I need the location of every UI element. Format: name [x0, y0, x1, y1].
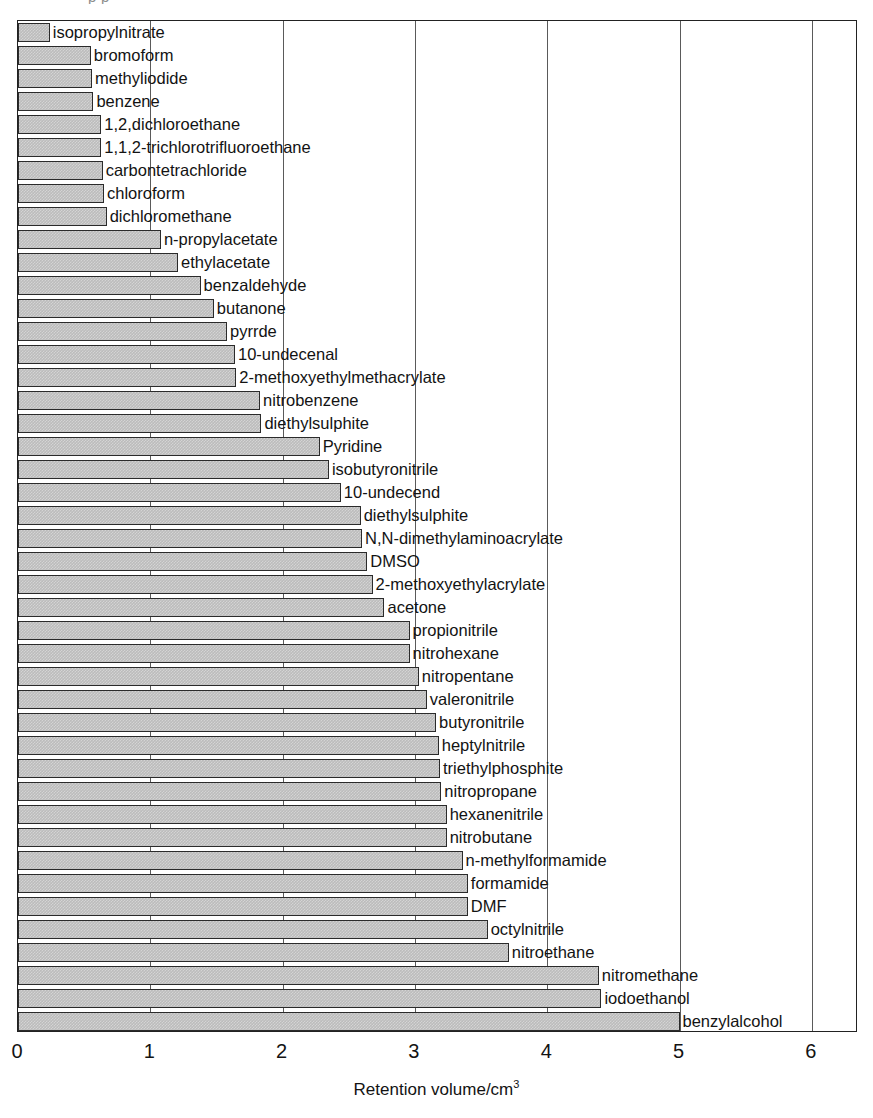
bar[interactable]	[18, 69, 92, 88]
bar-row[interactable]: 2-methoxyethylacrylate	[18, 573, 856, 596]
bar[interactable]	[18, 690, 427, 709]
bar[interactable]	[18, 736, 439, 755]
bar[interactable]	[18, 713, 436, 732]
bar[interactable]	[18, 23, 50, 42]
bar-row[interactable]: nitrohexane	[18, 642, 856, 665]
bar[interactable]	[18, 138, 101, 157]
bar-row[interactable]: iodoethanol	[18, 987, 856, 1010]
bar[interactable]	[18, 529, 362, 548]
bar[interactable]	[18, 437, 320, 456]
bar[interactable]	[18, 207, 107, 226]
bar-row[interactable]: 1,1,2-trichlorotrifluoroethane	[18, 136, 856, 159]
bar[interactable]	[18, 391, 260, 410]
bar-row[interactable]: 1,2,dichloroethane	[18, 113, 856, 136]
bar-row[interactable]: benzaldehyde	[18, 274, 856, 297]
bar-row[interactable]: isopropylnitrate	[18, 21, 856, 44]
bar-row[interactable]: formamide	[18, 872, 856, 895]
bar-row[interactable]: 2-methoxyethylmethacrylate	[18, 366, 856, 389]
bar[interactable]	[18, 368, 236, 387]
bar-row[interactable]: Pyridine	[18, 435, 856, 458]
bar-row[interactable]: carbontetrachloride	[18, 159, 856, 182]
bar-row[interactable]: triethylphosphite	[18, 757, 856, 780]
bar[interactable]	[18, 943, 509, 962]
bar-row[interactable]: n-propylacetate	[18, 228, 856, 251]
bar-row[interactable]: DMF	[18, 895, 856, 918]
bar-label: bromoform	[91, 47, 174, 64]
bar-row[interactable]: benzylalcohol	[18, 1010, 856, 1033]
bar[interactable]	[18, 874, 468, 893]
bar[interactable]	[18, 115, 101, 134]
bar-label: 1,1,2-trichlorotrifluoroethane	[101, 139, 310, 156]
bar[interactable]	[18, 598, 384, 617]
bar-label: iodoethanol	[601, 990, 689, 1007]
bar[interactable]	[18, 920, 488, 939]
bar[interactable]	[18, 782, 441, 801]
bar[interactable]	[18, 828, 447, 847]
bar[interactable]	[18, 552, 367, 571]
bar-row[interactable]: N,N-dimethylaminoacrylate	[18, 527, 856, 550]
bar-row[interactable]: isobutyronitrile	[18, 458, 856, 481]
bar-label: nitropropane	[441, 783, 537, 800]
bar[interactable]	[18, 46, 91, 65]
bar-row[interactable]: nitropropane	[18, 780, 856, 803]
bar-row[interactable]: nitromethane	[18, 964, 856, 987]
bar[interactable]	[18, 184, 104, 203]
bar[interactable]	[18, 276, 201, 295]
bar[interactable]	[18, 161, 103, 180]
bar-row[interactable]: DMSO	[18, 550, 856, 573]
bar-row[interactable]: nitrobenzene	[18, 389, 856, 412]
bar-label: valeronitrile	[427, 691, 514, 708]
bar-row[interactable]: bromoform	[18, 44, 856, 67]
bar-row[interactable]: propionitrile	[18, 619, 856, 642]
bar-label: diethylsulphite	[361, 507, 469, 524]
bar-row[interactable]: methyliodide	[18, 67, 856, 90]
bar-label: nitromethane	[599, 967, 698, 984]
bar-row[interactable]: ethylacetate	[18, 251, 856, 274]
bar-row[interactable]: diethylsulphite	[18, 504, 856, 527]
bar-row[interactable]: nitroethane	[18, 941, 856, 964]
bar-row[interactable]: hexanenitrile	[18, 803, 856, 826]
bar[interactable]	[18, 92, 93, 111]
bar[interactable]	[18, 851, 463, 870]
bar[interactable]	[18, 414, 261, 433]
bar[interactable]	[18, 299, 214, 318]
bar-row[interactable]: acetone	[18, 596, 856, 619]
bar-row[interactable]: octylnitrile	[18, 918, 856, 941]
bar-row[interactable]: 10-undecend	[18, 481, 856, 504]
bar[interactable]	[18, 230, 161, 249]
bar[interactable]	[18, 483, 341, 502]
bar[interactable]	[18, 575, 373, 594]
bar[interactable]	[18, 897, 468, 916]
bar[interactable]	[18, 460, 329, 479]
bar[interactable]	[18, 805, 447, 824]
bar[interactable]	[18, 644, 410, 663]
bar[interactable]	[18, 345, 235, 364]
bar-row[interactable]: butyronitrile	[18, 711, 856, 734]
bar-row[interactable]: valeronitrile	[18, 688, 856, 711]
bar[interactable]	[18, 506, 361, 525]
bar-label: N,N-dimethylaminoacrylate	[362, 530, 563, 547]
bar-row[interactable]: nitrobutane	[18, 826, 856, 849]
bar-row[interactable]: 10-undecenal	[18, 343, 856, 366]
x-tick-label-0: 0	[11, 1040, 22, 1063]
bar-label: nitrobutane	[447, 829, 533, 846]
bar-row[interactable]: chloroform	[18, 182, 856, 205]
bar-row[interactable]: benzene	[18, 90, 856, 113]
bar[interactable]	[18, 667, 419, 686]
bar[interactable]	[18, 966, 599, 985]
bar-label: carbontetrachloride	[103, 162, 247, 179]
bar[interactable]	[18, 1012, 680, 1031]
bar[interactable]	[18, 989, 601, 1008]
x-axis-label: Retention volume/cm3	[0, 1078, 873, 1100]
bar-row[interactable]: heptylnitrile	[18, 734, 856, 757]
bar-row[interactable]: n-methylformamide	[18, 849, 856, 872]
bar-row[interactable]: pyrrde	[18, 320, 856, 343]
bar-row[interactable]: nitropentane	[18, 665, 856, 688]
bar[interactable]	[18, 759, 440, 778]
bar-row[interactable]: butanone	[18, 297, 856, 320]
bar[interactable]	[18, 253, 178, 272]
bar-row[interactable]: diethylsulphite	[18, 412, 856, 435]
bar[interactable]	[18, 322, 227, 341]
bar-row[interactable]: dichloromethane	[18, 205, 856, 228]
bar[interactable]	[18, 621, 410, 640]
